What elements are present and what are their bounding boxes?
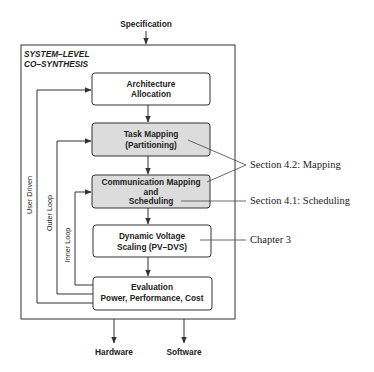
co-synthesis-flow-diagram: Specification SYSTEM–LEVEL CO–SYNTHESIS …	[0, 0, 374, 372]
outer-loop-label: Outer Loop	[45, 195, 54, 231]
svg-text:and: and	[144, 187, 159, 197]
task-mapping-box: Task Mapping (Partitioning)	[92, 123, 210, 156]
dynamic-voltage-scaling-box: Dynamic Voltage Scaling (PV–DVS)	[93, 225, 211, 257]
chapter-3-annotation: Chapter 3	[250, 234, 291, 245]
section-4-1-scheduling-annotation: Section 4.1: Scheduling	[250, 195, 351, 206]
section-4-2-mapping-annotation: Section 4.2: Mapping	[250, 159, 341, 170]
user-driven-label: User Driven	[25, 176, 34, 214]
inner-loop-label: Inner Loop	[63, 228, 72, 262]
svg-text:Scheduling: Scheduling	[129, 196, 174, 206]
svg-text:Allocation: Allocation	[131, 89, 171, 99]
svg-text:Evaluation: Evaluation	[131, 282, 173, 292]
svg-text:Architecture: Architecture	[127, 79, 176, 89]
hardware-label: Hardware	[95, 347, 133, 357]
svg-text:(Partitioning): (Partitioning)	[125, 140, 177, 150]
group-label-line2: CO–SYNTHESIS	[24, 59, 89, 69]
software-label: Software	[166, 347, 201, 357]
svg-text:Task Mapping: Task Mapping	[124, 129, 179, 139]
inner-loop-arrow	[75, 192, 93, 285]
svg-text:Scaling (PV–DVS): Scaling (PV–DVS)	[117, 242, 187, 252]
svg-text:Communication Mapping: Communication Mapping	[101, 177, 200, 187]
architecture-allocation-box: Architecture Allocation	[92, 73, 210, 105]
svg-text:Dynamic Voltage: Dynamic Voltage	[119, 231, 186, 241]
group-label-line1: SYSTEM–LEVEL	[24, 49, 89, 59]
svg-text:Power, Performance, Cost: Power, Performance, Cost	[101, 293, 204, 303]
specification-label: Specification	[120, 19, 172, 29]
communication-mapping-scheduling-box: Communication Mapping and Scheduling	[92, 175, 210, 208]
mapping-pointer-comm	[207, 165, 246, 182]
evaluation-box: Evaluation Power, Performance, Cost	[93, 277, 212, 310]
